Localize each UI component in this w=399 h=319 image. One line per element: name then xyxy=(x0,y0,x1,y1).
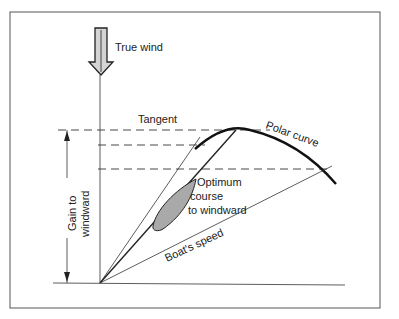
down-arrowhead-icon xyxy=(64,272,70,282)
optimum-course-label: Optimum course to windward xyxy=(188,176,247,216)
true-wind-arrow-icon xyxy=(89,28,113,75)
gain-to-windward-label: Gain to windward xyxy=(66,191,91,238)
true-wind-label: True wind xyxy=(115,41,163,53)
boat-speed-label: Boat's speed xyxy=(163,226,225,264)
tangent-line xyxy=(100,137,200,283)
sailing-polar-diagram: True wind Tangent Polar curve Optimum co… xyxy=(0,0,399,319)
up-arrowhead-icon xyxy=(64,131,70,141)
diagram-frame xyxy=(10,12,380,308)
polar-curve-label: Polar curve xyxy=(264,119,320,149)
tangent-label: Tangent xyxy=(138,113,177,125)
baseline xyxy=(53,283,345,285)
